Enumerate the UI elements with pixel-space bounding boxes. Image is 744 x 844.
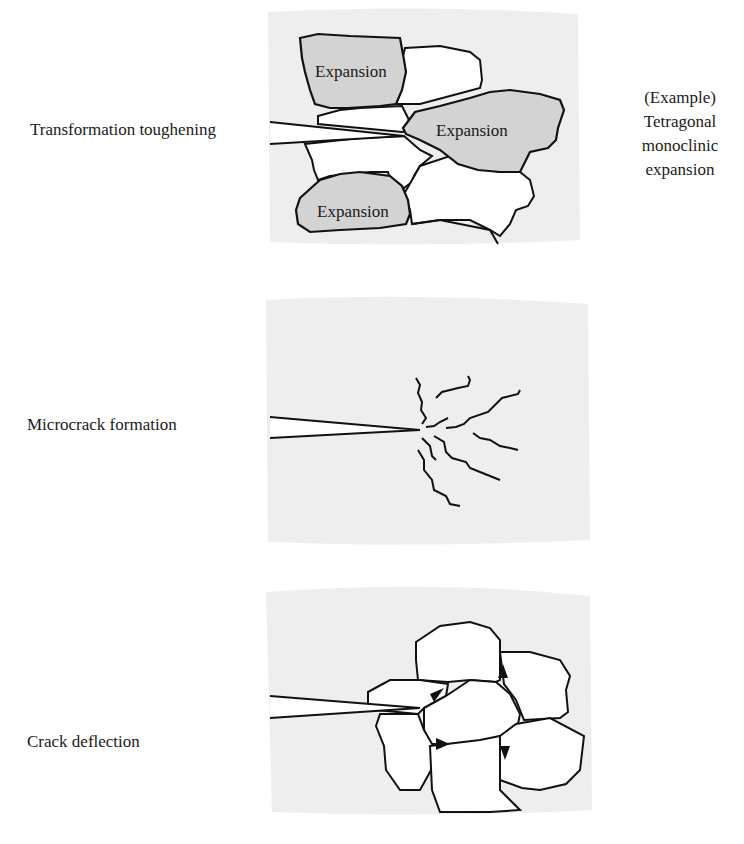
panel-transformation-toughening: Expansion Expansion Expansion — [268, 8, 580, 244]
panel-microcrack-formation — [266, 297, 590, 545]
expansion-label-2: Expansion — [436, 121, 508, 140]
panel-crack-deflection — [266, 587, 592, 815]
expansion-label-1: Expansion — [315, 62, 387, 81]
diagram-canvas: Expansion Expansion Expansion — [0, 0, 744, 844]
expansion-label-3: Expansion — [317, 202, 389, 221]
